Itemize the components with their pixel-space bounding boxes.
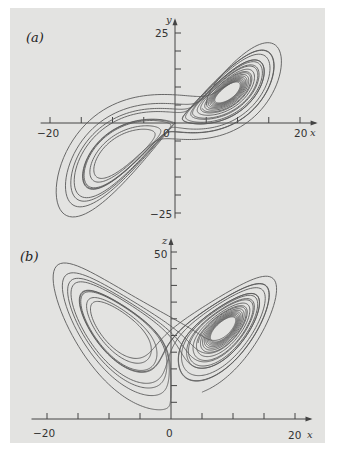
panel-a-x-tick-0: 0 [163,128,170,139]
panel-b-x-tick-0: 0 [166,428,173,439]
panel-b-x-axis-name: x [307,430,313,440]
panel-b-plot [32,238,313,422]
panel-a-label: (a) [26,30,44,45]
panel-b-z-axis-name: z [162,236,167,246]
panel-b-z-tick-50: 50 [154,249,167,260]
panel-a-x-axis-name: x [310,128,316,138]
figure-canvas [0,0,339,456]
panel-b-trajectory [53,263,276,410]
panel-b-x-tick-neg20: −20 [33,428,55,439]
panel-a-y-axis-name: y [166,15,172,25]
panel-b-axes [32,238,313,422]
panel-a-y-tick-neg25: −25 [150,209,172,220]
panel-a-y-tick-25: 25 [155,28,168,39]
panel-a-axes [41,18,318,218]
panel-a-x-tick-20: 20 [294,128,307,139]
panel-b-x-tick-20: 20 [288,430,301,441]
panel-a-x-tick-neg20: −20 [37,128,59,139]
panel-a-plot [41,18,318,218]
panel-b-label: (b) [20,249,38,264]
